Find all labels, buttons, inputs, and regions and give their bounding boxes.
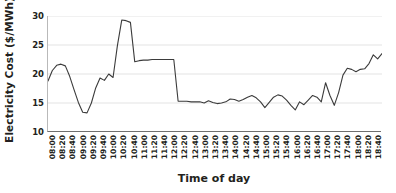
y-axis-tick-labels: 1015202530 — [16, 0, 44, 193]
x-tick-label: 14:00 — [232, 135, 240, 159]
y-tick-label: 15 — [22, 99, 44, 108]
y-tick-label: 10 — [22, 128, 44, 137]
x-tick-label: 09:40 — [100, 135, 108, 159]
y-axis-title-text: Electricity Cost ($/MWh) — [3, 0, 15, 143]
y-tick-label: 30 — [22, 12, 44, 21]
x-tick-label: 18:20 — [365, 135, 373, 159]
x-tick-label: 12:40 — [192, 135, 200, 159]
x-tick-label: 17:40 — [344, 135, 352, 159]
chart-canvas — [48, 16, 382, 132]
x-axis-title: Time of day — [47, 172, 381, 185]
x-tick-label: 13:00 — [202, 135, 210, 159]
x-tick-label: 15:40 — [283, 135, 291, 159]
electricity-cost-line-chart: Electricity Cost ($/MWh) 1015202530 08:0… — [0, 0, 396, 193]
x-tick-label: 10:00 — [110, 135, 118, 159]
y-tick-label: 20 — [22, 70, 44, 79]
x-tick-label: 15:00 — [263, 135, 271, 159]
x-tick-label: 11:20 — [151, 135, 159, 159]
x-tick-label: 10:40 — [131, 135, 139, 159]
gridlines — [48, 16, 382, 103]
x-tick-label: 16:20 — [304, 135, 312, 159]
x-tick-label: 12:00 — [171, 135, 179, 159]
x-tick-label: 13:40 — [222, 135, 230, 159]
x-tick-label: 14:20 — [243, 135, 251, 159]
x-tick-label: 18:00 — [355, 135, 363, 159]
y-tick-label: 25 — [22, 41, 44, 50]
x-tick-label: 12:20 — [181, 135, 189, 159]
plot-area — [47, 16, 381, 132]
x-tick-label: 11:00 — [141, 135, 149, 159]
x-tick-label: 10:20 — [120, 135, 128, 159]
x-tick-label: 09:20 — [90, 135, 98, 159]
x-tick-label: 16:40 — [314, 135, 322, 159]
x-tick-label: 11:40 — [161, 135, 169, 159]
x-tick-label: 14:40 — [253, 135, 261, 159]
x-tick-label: 13:20 — [212, 135, 220, 159]
x-tick-label: 09:00 — [80, 135, 88, 159]
data-series-line — [48, 20, 382, 113]
x-tick-label: 15:20 — [273, 135, 281, 159]
x-tick-label: 08:00 — [49, 135, 57, 159]
x-tick-label: 17:20 — [334, 135, 342, 159]
x-axis-tick-labels: 08:0008:2008:4009:0009:2009:4010:0010:20… — [47, 132, 381, 172]
x-tick-label: 18:40 — [375, 135, 383, 159]
x-tick-label: 08:40 — [69, 135, 77, 159]
x-tick-label: 17:00 — [324, 135, 332, 159]
x-tick-label: 08:20 — [59, 135, 67, 159]
x-tick-label: 16:00 — [294, 135, 302, 159]
